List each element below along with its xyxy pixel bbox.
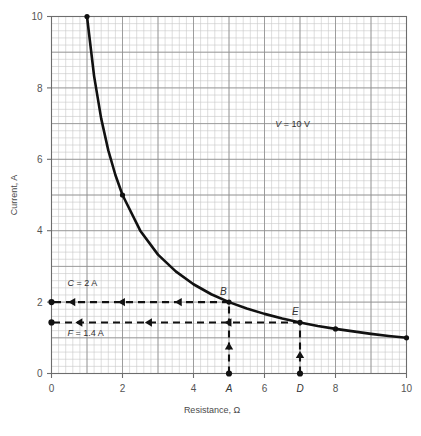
y-tick-label: 2 [37, 297, 43, 308]
data-point-marker [84, 14, 89, 19]
chart-figure: 0246810 0246810 V = 10 VC = 2 AF = 1.4 A… [0, 0, 421, 436]
y-axis-title: Current, A [9, 175, 19, 216]
resistance-current-chart: 0246810 0246810 V = 10 VC = 2 AF = 1.4 A… [0, 0, 421, 436]
point-E: E [292, 306, 299, 317]
point-F-note: F = 1.4 A [67, 328, 103, 338]
y-tick-label: 6 [37, 154, 43, 165]
x-tick-label: 8 [333, 383, 339, 394]
point-A: A [225, 383, 233, 394]
data-point-marker [120, 192, 125, 197]
y-tick-label: 0 [37, 368, 43, 379]
y-tick-label: 4 [37, 225, 43, 236]
data-point-marker [404, 335, 409, 340]
endpoint-dot [297, 370, 303, 376]
point-C-note: C = 2 A [67, 278, 97, 288]
x-tick-label: 4 [191, 383, 197, 394]
x-tick-label: 2 [120, 383, 126, 394]
x-tick-label: 6 [262, 383, 268, 394]
data-point-marker [226, 300, 231, 305]
y-tick-label: 8 [37, 83, 43, 94]
endpoint-dot [48, 319, 54, 325]
endpoint-dot [226, 370, 232, 376]
point-B: B [220, 286, 227, 297]
chart-background [0, 0, 421, 436]
data-point-marker [297, 320, 302, 325]
x-axis-title: Resistance, Ω [184, 405, 241, 415]
x-tick-label: 0 [49, 383, 55, 394]
x-tick-label: 10 [401, 383, 413, 394]
point-D: D [296, 383, 303, 394]
voltage-note: V = 10 V [275, 119, 310, 129]
y-tick-label: 10 [31, 11, 43, 22]
data-point-marker [333, 326, 338, 331]
endpoint-dot [48, 299, 54, 305]
